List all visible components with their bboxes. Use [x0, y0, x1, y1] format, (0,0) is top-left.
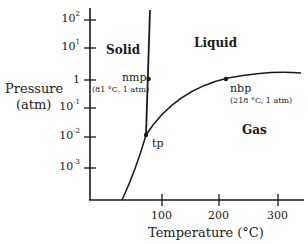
x-tick-label: 300 [267, 210, 288, 221]
y-tick-label: 101 [50, 41, 80, 52]
tp-label: tp [152, 138, 163, 149]
region-liquid-label: Liquid [194, 37, 237, 49]
nmp-label: nmp [122, 72, 147, 83]
x-tick-label: 100 [151, 210, 172, 221]
y-tick-label: 10-2 [50, 130, 80, 141]
x-axis-title: Temperature (°C) [148, 226, 264, 239]
y-tick-label: 10-1 [50, 101, 80, 112]
region-solid-label: Solid [106, 44, 140, 56]
tp-point [144, 133, 148, 137]
nmp-detail: (81 °C, 1 atm) [92, 86, 149, 94]
phase-diagram-plot [0, 0, 308, 244]
x-tick-label: 200 [208, 210, 229, 221]
region-gas-label: Gas [242, 124, 267, 136]
nmp-point [146, 77, 150, 81]
y-axis-title-unit: (atm) [16, 98, 51, 111]
y-axis-title: Pressure [5, 82, 63, 95]
sublimation-curve [122, 135, 146, 200]
melting-curve [146, 10, 150, 135]
y-tick-label: 102 [50, 13, 80, 24]
y-tick-label: 10-3 [50, 161, 80, 172]
nbp-point [224, 77, 228, 81]
nbp-label: nbp [230, 83, 251, 94]
nbp-detail: (218 °C, 1 atm) [230, 97, 292, 105]
